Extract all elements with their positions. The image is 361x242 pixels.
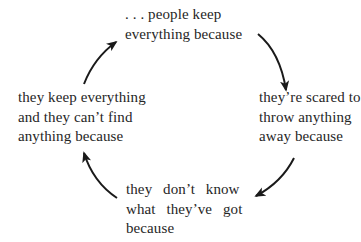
curved-arrow-icon: [84, 153, 117, 198]
cycle-node-cant-find-anything: they keep everything and they can’t find…: [18, 88, 146, 147]
node-text-line: everything because: [125, 25, 242, 45]
node-text-line: throw anything: [259, 108, 361, 128]
node-text-line: what they’ve got: [126, 200, 242, 220]
node-text-line: away because: [259, 127, 361, 147]
curved-arrow-icon: [84, 42, 116, 84]
cycle-node-scared-to-throw-away: they’re scared to throw anything away be…: [259, 88, 361, 147]
node-text-line: and they can’t find: [18, 108, 146, 128]
node-text-line: they don’t know: [126, 180, 242, 200]
cycle-node-dont-know-what-they-have: they don’t know what they’ve got because: [126, 180, 242, 239]
cycle-node-people-keep-everything: . . . people keep everything because: [125, 5, 242, 44]
node-text-line: they keep everything: [18, 88, 146, 108]
node-text-line: anything because: [18, 127, 146, 147]
node-text-line: they’re scared to: [259, 88, 361, 108]
node-text-line: because: [126, 219, 242, 239]
node-text-line: . . . people keep: [125, 5, 242, 25]
curved-arrow-icon: [258, 34, 286, 90]
curved-arrow-icon: [256, 158, 294, 196]
